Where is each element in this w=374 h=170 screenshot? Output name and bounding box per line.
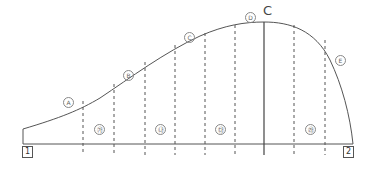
- curve-label-a: A: [63, 97, 74, 108]
- curve-label-c: C: [184, 32, 195, 43]
- section-label-ga: ㉮: [94, 124, 105, 135]
- peak-label: C: [263, 6, 272, 16]
- section-label-da: ㉰: [215, 124, 226, 135]
- curve-label-b: B: [123, 70, 134, 81]
- diagram-canvas: [0, 0, 374, 170]
- curve-label-d: D: [245, 12, 256, 23]
- endpoint-label-1: 1: [22, 146, 33, 158]
- curve-label-e: E: [335, 55, 346, 66]
- division-lines: [83, 25, 325, 155]
- section-label-na: ㉯: [155, 124, 166, 135]
- section-label-ra: ㉱: [305, 124, 316, 135]
- endpoint-label-2: 2: [343, 146, 354, 158]
